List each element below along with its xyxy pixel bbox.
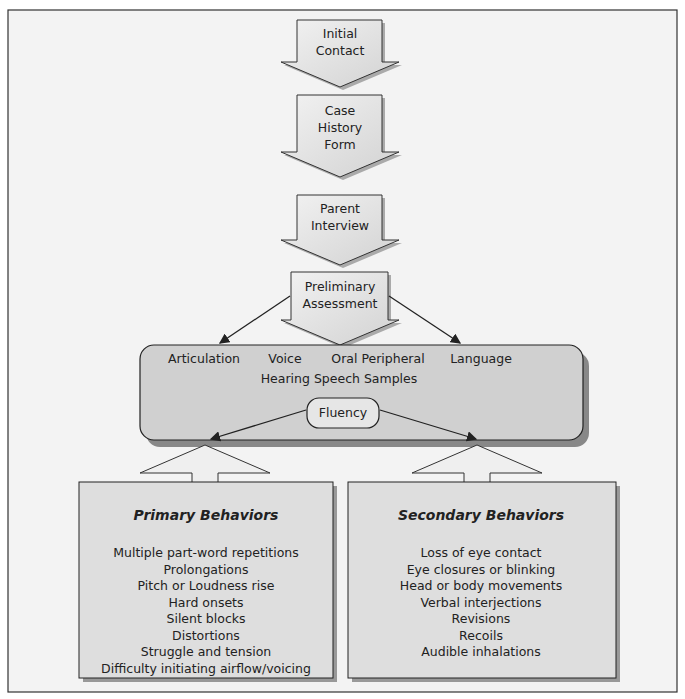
area-hearing-speech-samples: Hearing Speech Samples <box>261 370 418 387</box>
secondary-behaviors-list: Loss of eye contactEye closures or blink… <box>400 545 562 661</box>
area-voice: Voice <box>268 350 301 367</box>
secondary-behaviors-title: Secondary Behaviors <box>398 507 564 524</box>
area-oral-peripheral: Oral Peripheral <box>331 350 424 367</box>
primary-behaviors-list: Multiple part-word repetitionsProlongati… <box>101 545 311 677</box>
step-case-history-form: CaseHistoryForm <box>318 102 362 153</box>
step-preliminary-assessment: PreliminaryAssessment <box>303 278 378 312</box>
step-parent-interview: ParentInterview <box>311 200 369 234</box>
area-fluency: Fluency <box>319 404 367 421</box>
area-articulation: Articulation <box>168 350 240 367</box>
area-language: Language <box>450 350 512 367</box>
primary-behaviors-title: Primary Behaviors <box>134 507 279 524</box>
step-initial-contact: InitialContact <box>316 25 365 59</box>
